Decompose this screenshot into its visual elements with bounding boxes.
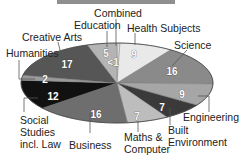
label-built-1: Built bbox=[168, 124, 189, 136]
label-health: Health Subjects bbox=[127, 22, 201, 34]
value-social: 12 bbox=[47, 91, 59, 102]
label-education: Education bbox=[74, 19, 121, 31]
value-health: 9 bbox=[131, 49, 137, 60]
value-creative: 17 bbox=[61, 59, 73, 70]
label-social-1: Social bbox=[20, 114, 49, 126]
pie-chart: <1 9 16 9 7 7 16 12 2 17 5 Combined Heal… bbox=[0, 0, 241, 164]
label-social-3: incl. Law bbox=[20, 138, 61, 150]
value-combined: <1 bbox=[107, 57, 119, 68]
value-humanities: 2 bbox=[42, 74, 48, 85]
label-combined: Combined bbox=[94, 7, 142, 19]
value-science: 16 bbox=[166, 66, 178, 77]
label-maths-1: Maths & bbox=[124, 131, 163, 143]
value-engineering: 9 bbox=[179, 89, 185, 100]
value-business: 16 bbox=[90, 109, 102, 120]
label-built-2: Environment bbox=[168, 136, 227, 148]
label-humanities: Humanities bbox=[6, 47, 59, 59]
value-maths: 7 bbox=[134, 111, 140, 122]
label-business: Business bbox=[69, 139, 112, 151]
value-built: 7 bbox=[159, 102, 165, 113]
label-engineering: Engineering bbox=[183, 111, 239, 123]
label-creative: Creative Arts bbox=[22, 31, 82, 43]
value-education: 5 bbox=[103, 48, 109, 59]
label-science: Science bbox=[174, 39, 212, 51]
label-maths-2: Computer bbox=[124, 143, 171, 155]
label-social-2: Studies bbox=[20, 126, 55, 138]
